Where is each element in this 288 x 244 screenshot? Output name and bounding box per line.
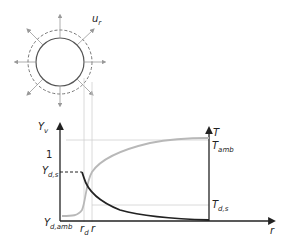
velocity-label: ur (92, 14, 101, 27)
t-axis-label: T (213, 128, 219, 138)
tick-yds: Yd,s (42, 166, 58, 179)
droplet (16, 16, 104, 105)
vapor-fraction-curve (82, 172, 209, 220)
y-axis-label: Yv (38, 122, 48, 135)
tick-one: 1 (46, 150, 52, 160)
tick-rd: rd (80, 224, 89, 237)
guide-lines (66, 78, 209, 222)
x-axis-label: r (270, 226, 274, 236)
droplet-surface (36, 38, 84, 86)
radial-velocity-arrows (16, 16, 104, 105)
tick-tamb: Tamb (212, 141, 234, 154)
tick-ydamb: Yd,amb (44, 218, 72, 231)
tick-r: r (91, 224, 95, 234)
tick-tds: Td,s (212, 200, 228, 213)
